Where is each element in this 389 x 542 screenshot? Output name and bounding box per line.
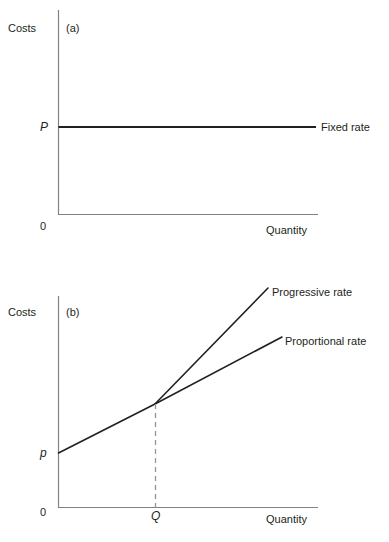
panel-a-group [59,10,319,215]
panel-a-y-axis-label: Costs [8,22,36,34]
panel-b-group [59,288,319,508]
panel-b-series-label-progressive-rate: Progressive rate [272,286,352,298]
two-panel-cost-chart: Costs (a) P 0 Quantity Fixed rate Costs … [0,0,389,542]
panel-b-y-axis-label: Costs [8,306,36,318]
panel-b-series-progressive-rate [155,288,268,404]
panel-b-intercept-label-p: p [40,447,47,459]
panel-b-series-label-proportional-rate: Proportional rate [285,335,366,347]
panel-b-x-tick-label-q: Q [151,510,160,522]
panel-a-tag: (a) [66,22,79,34]
panel-a-x-axis-label: Quantity [266,224,307,236]
panel-b-origin-label: 0 [40,506,46,518]
panel-a-series-label-fixed-rate: Fixed rate [321,121,370,133]
panel-a-origin-label: 0 [40,220,46,232]
panel-b-tag: (b) [66,306,79,318]
chart-canvas [0,0,389,542]
panel-b-series-proportional-rate [155,337,282,404]
panel-b-shared-segment [59,404,156,453]
panel-b-x-axis-label: Quantity [266,513,307,525]
panel-a-intercept-label-p: P [40,121,48,133]
